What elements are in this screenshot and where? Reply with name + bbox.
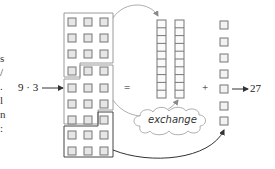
expression-left: 9 · 3 xyxy=(18,81,38,93)
plus-sign: + xyxy=(202,81,208,93)
result-value: 27 xyxy=(250,82,261,94)
cloud-label: exchange xyxy=(148,114,197,125)
curve-arrow-bottom-icon xyxy=(113,130,224,158)
diagram-canvas xyxy=(0,0,275,169)
tens-rod-1 xyxy=(157,20,166,98)
tens-rod-2 xyxy=(175,20,184,98)
ones-squares xyxy=(220,21,228,125)
equals-sign: = xyxy=(124,81,130,93)
curve-arrow-top-icon xyxy=(113,5,158,18)
grid-squares xyxy=(68,18,108,155)
